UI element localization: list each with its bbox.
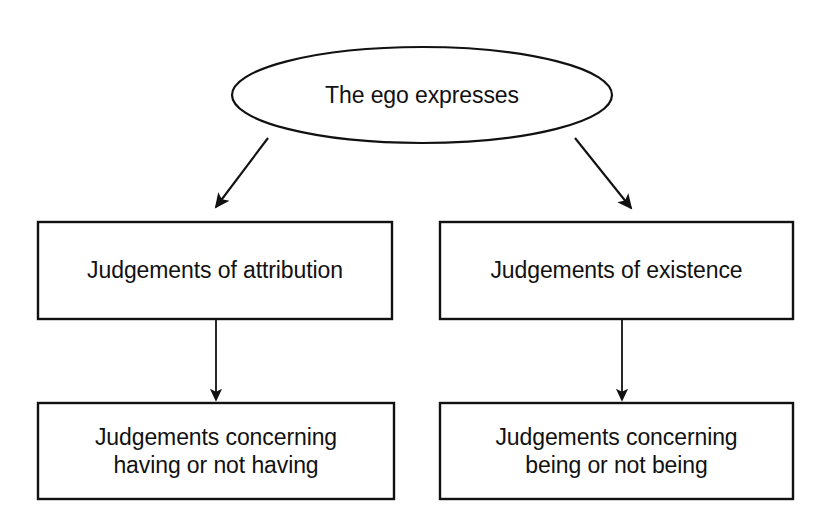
node-being-box (440, 403, 793, 499)
edge-root-to-existence (575, 138, 631, 208)
node-existence-box (440, 222, 793, 319)
diagram-canvas (0, 0, 834, 524)
node-having-box (38, 403, 394, 499)
node-attribution-box (38, 222, 392, 319)
node-root-ellipse (232, 47, 612, 143)
flowchart-diagram: The ego expresses Judgements of attribut… (0, 0, 834, 524)
edge-root-to-attribution (216, 138, 268, 207)
